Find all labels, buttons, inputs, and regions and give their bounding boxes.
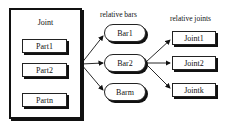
arrow-bar2-to-jointk	[146, 64, 170, 88]
arrow-bar2-to-joint1	[146, 40, 170, 62]
arrow-joint-to-barm	[81, 64, 103, 90]
part-box-1: Part1	[22, 39, 67, 53]
part-box-n: Partn	[22, 93, 67, 107]
joint-node-1: Joint1	[172, 31, 216, 45]
bar-node-1: Bar1	[104, 24, 146, 42]
relative-joints-label: relative joints	[170, 14, 211, 23]
bar-node-2: Bar2	[104, 54, 146, 72]
part-box-2: Part2	[22, 63, 67, 77]
bar-node-m: Barm	[104, 83, 146, 101]
arrow-joint-to-bar2	[81, 63, 103, 64]
relative-bars-label: relative bars	[100, 10, 137, 19]
arrow-joint-to-bar1	[81, 36, 103, 64]
joint-node-2: Joint2	[172, 56, 216, 70]
joint-title: Joint	[11, 18, 80, 27]
joint-node-k: Jointk	[172, 83, 216, 97]
